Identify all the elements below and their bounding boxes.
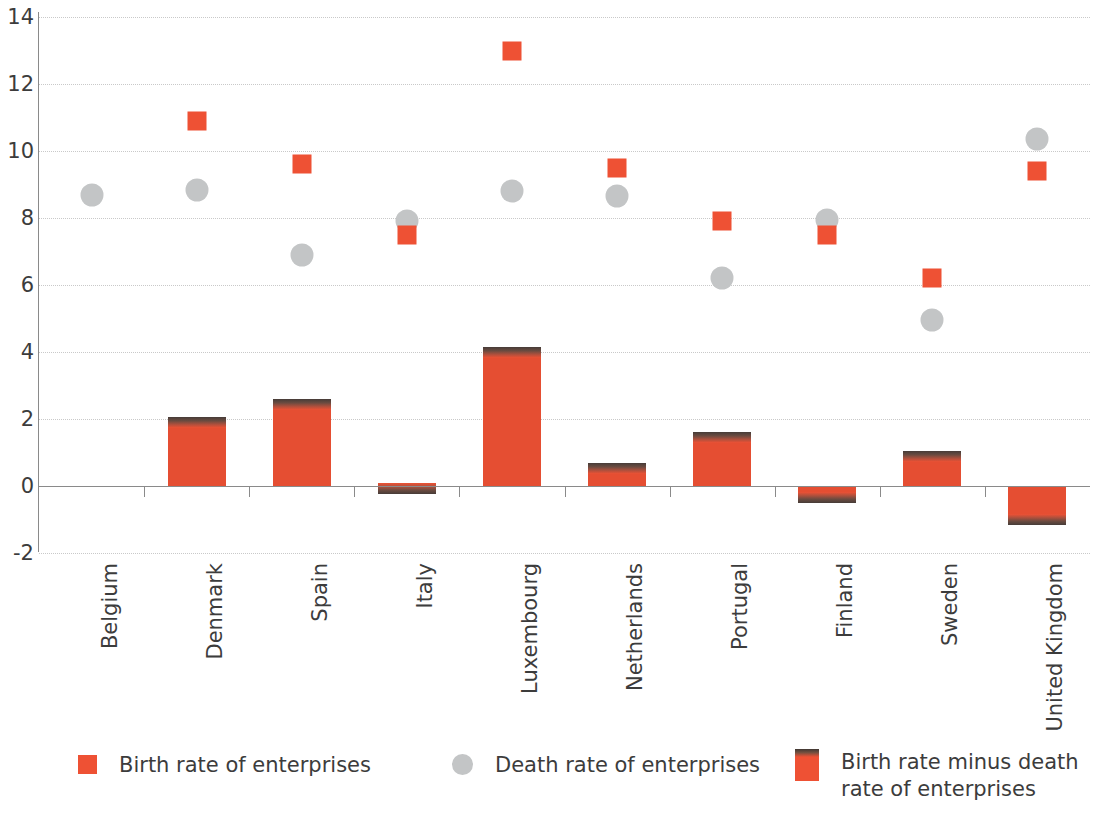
bar bbox=[693, 432, 751, 486]
bar-swatch-icon bbox=[795, 749, 819, 781]
y-axis-tick-label: 12 bbox=[0, 74, 34, 95]
birth-rate-marker bbox=[1028, 162, 1047, 181]
gridline bbox=[39, 553, 1090, 554]
x-axis-category-label: Italy bbox=[415, 563, 436, 609]
death-rate-marker bbox=[921, 309, 944, 332]
x-axis-tick bbox=[985, 486, 986, 497]
y-axis-tick-label: 10 bbox=[0, 141, 34, 162]
plot-area bbox=[39, 0, 1090, 552]
x-axis-category-label: Denmark bbox=[205, 563, 226, 660]
x-axis-category-label: Sweden bbox=[940, 563, 961, 646]
gridline bbox=[39, 17, 1090, 18]
bar bbox=[273, 399, 331, 486]
gridline bbox=[39, 218, 1090, 219]
legend-label: Birth rate of enterprises bbox=[119, 752, 371, 779]
y-axis-tick-label: -2 bbox=[0, 543, 34, 564]
x-axis-tick bbox=[144, 486, 145, 497]
gridline bbox=[39, 352, 1090, 353]
birth-rate-marker bbox=[713, 212, 732, 231]
bar bbox=[903, 451, 961, 486]
y-axis-tick-labels: 14121086420-2 bbox=[0, 0, 34, 552]
gridline bbox=[39, 84, 1090, 85]
bar-cap bbox=[903, 451, 961, 462]
x-axis-category-label: Luxembourg bbox=[520, 563, 541, 694]
bar-cap bbox=[798, 492, 856, 503]
bar-cap bbox=[273, 399, 331, 410]
x-axis-category-label: United Kingdom bbox=[1045, 563, 1066, 732]
y-axis-tick-label: 14 bbox=[0, 7, 34, 28]
birth-rate-marker bbox=[292, 155, 311, 174]
x-axis-tick bbox=[880, 486, 881, 497]
birth-rate-marker bbox=[397, 225, 416, 244]
bar bbox=[798, 486, 856, 503]
x-axis-category-label: Netherlands bbox=[625, 563, 646, 691]
chart-figure: 14121086420-2 BelgiumDenmarkSpainItalyLu… bbox=[0, 0, 1098, 818]
bar-cap bbox=[1008, 514, 1066, 525]
circle-swatch-icon bbox=[452, 754, 473, 775]
birth-rate-marker bbox=[818, 225, 837, 244]
death-rate-marker bbox=[606, 185, 629, 208]
y-axis-tick-label: 0 bbox=[0, 476, 34, 497]
x-axis-tick bbox=[249, 486, 250, 497]
bar-cap bbox=[168, 417, 226, 428]
x-axis-category-label: Spain bbox=[310, 563, 331, 622]
death-rate-marker bbox=[185, 178, 208, 201]
x-axis-category-label: Finland bbox=[835, 563, 856, 638]
legend-label: Death rate of enterprises bbox=[495, 752, 760, 779]
death-rate-marker bbox=[80, 183, 103, 206]
death-rate-marker bbox=[290, 243, 313, 266]
x-axis-tick bbox=[459, 486, 460, 497]
y-axis-tick-label: 8 bbox=[0, 208, 34, 229]
birth-rate-marker bbox=[923, 269, 942, 288]
bar bbox=[168, 417, 226, 486]
bar-cap bbox=[693, 432, 751, 443]
death-rate-marker bbox=[711, 267, 734, 290]
death-rate-marker bbox=[1026, 128, 1049, 151]
y-axis-tick-label: 2 bbox=[0, 409, 34, 430]
birth-rate-marker bbox=[502, 41, 521, 60]
legend-label: Birth rate minus death rate of enterpris… bbox=[841, 749, 1079, 803]
y-axis-tick-label: 4 bbox=[0, 342, 34, 363]
birth-rate-marker bbox=[608, 158, 627, 177]
x-axis-tick bbox=[775, 486, 776, 497]
bar bbox=[378, 486, 436, 494]
x-axis-zero-line bbox=[39, 486, 1090, 487]
gridline bbox=[39, 151, 1090, 152]
bar bbox=[588, 463, 646, 486]
square-swatch-icon bbox=[78, 755, 97, 774]
y-axis-line bbox=[38, 12, 39, 552]
bar-cap bbox=[588, 463, 646, 474]
death-rate-marker bbox=[500, 180, 523, 203]
birth-rate-marker bbox=[187, 111, 206, 130]
bar-cap bbox=[483, 347, 541, 358]
x-axis-tick bbox=[670, 486, 671, 497]
x-axis-category-label: Portugal bbox=[730, 563, 751, 650]
x-axis-tick bbox=[565, 486, 566, 497]
x-axis-category-label: Belgium bbox=[100, 563, 121, 649]
bar bbox=[483, 347, 541, 486]
legend-item-death-rate: Death rate of enterprises bbox=[452, 752, 760, 779]
bar bbox=[1008, 486, 1066, 525]
legend-item-birth-rate: Birth rate of enterprises bbox=[78, 752, 371, 779]
x-axis-tick bbox=[354, 486, 355, 497]
legend-item-birth-minus-death: Birth rate minus death rate of enterpris… bbox=[795, 749, 1079, 803]
y-axis-tick-label: 6 bbox=[0, 275, 34, 296]
chart-legend: Birth rate of enterprises Death rate of … bbox=[0, 752, 1098, 818]
